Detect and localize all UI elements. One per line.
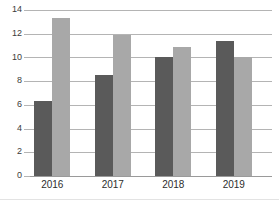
- y-axis-tick-label: 12: [2, 29, 22, 38]
- axis-baseline-0: [30, 176, 272, 177]
- y-axis-tick-label: 14: [2, 5, 22, 14]
- y-axis-tick-label: 8: [2, 76, 22, 85]
- bar-2019-series-1: [216, 41, 234, 176]
- x-axis-tick-label: 2016: [28, 179, 76, 191]
- plot-area: [30, 10, 272, 176]
- y-axis-tick-label: 2: [2, 147, 22, 156]
- bar-2018-series-1: [155, 57, 173, 176]
- bar-series-layer: [30, 10, 272, 176]
- x-axis-tick-label: 2018: [149, 179, 197, 191]
- tick-stub: [24, 176, 30, 177]
- y-axis-tick-label: 0: [2, 171, 22, 180]
- bar-2016-series-1: [34, 101, 52, 176]
- bar-2017-series-2: [113, 35, 131, 176]
- bar-2018-series-2: [173, 47, 191, 176]
- x-axis-tick-label: 2017: [89, 179, 137, 191]
- bar-2016-series-2: [52, 18, 70, 176]
- x-axis-tick-label: 2019: [210, 179, 258, 191]
- y-axis-labels: 14 12 10 8 6 4 2 0: [0, 0, 30, 204]
- bottom-divider: [0, 199, 279, 200]
- y-axis-tick-label: 4: [2, 124, 22, 133]
- bar-2017-series-1: [95, 75, 113, 176]
- x-axis-labels: 2016201720182019: [30, 179, 272, 195]
- bar-chart: 14 12 10 8 6 4 2 0 2016201720182019: [0, 0, 279, 204]
- y-axis-tick-label: 6: [2, 100, 22, 109]
- y-axis-tick-label: 10: [2, 53, 22, 62]
- chart-title-cropped: [40, 0, 240, 3]
- bar-2019-series-2: [234, 57, 252, 176]
